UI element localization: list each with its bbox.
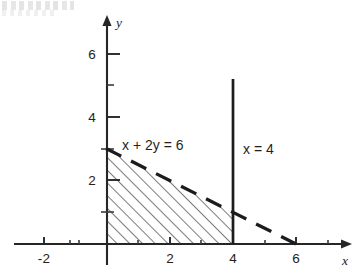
- x-axis-name: x: [341, 253, 348, 268]
- y-axis-name: y: [114, 15, 122, 30]
- y-axis-arrow-icon: [102, 15, 111, 26]
- y-tick-label-4: 4: [88, 110, 96, 125]
- x-tick-label--2: -2: [38, 251, 50, 266]
- label-x-equals-4: x = 4: [243, 141, 274, 157]
- equation-labels: x + 2y = 6 x = 4: [122, 137, 274, 157]
- feasible-region: [107, 149, 233, 244]
- x-tick-label-2: 2: [166, 251, 174, 266]
- figure-root: -2 2 4 6 6 4 2 x y x + 2y = 6 x = 4: [0, 0, 363, 273]
- x-tick-label-6: 6: [292, 251, 300, 266]
- coordinate-plot: -2 2 4 6 6 4 2 x y x + 2y = 6 x = 4: [0, 0, 363, 273]
- x-axis-arrow-icon: [341, 239, 352, 248]
- feasible-region-hatch: [107, 149, 233, 244]
- label-x-plus-2y-equals-6: x + 2y = 6: [122, 137, 184, 153]
- y-tick-label-2: 2: [88, 173, 96, 188]
- y-tick-label-6: 6: [88, 47, 96, 62]
- x-tick-label-4: 4: [229, 251, 237, 266]
